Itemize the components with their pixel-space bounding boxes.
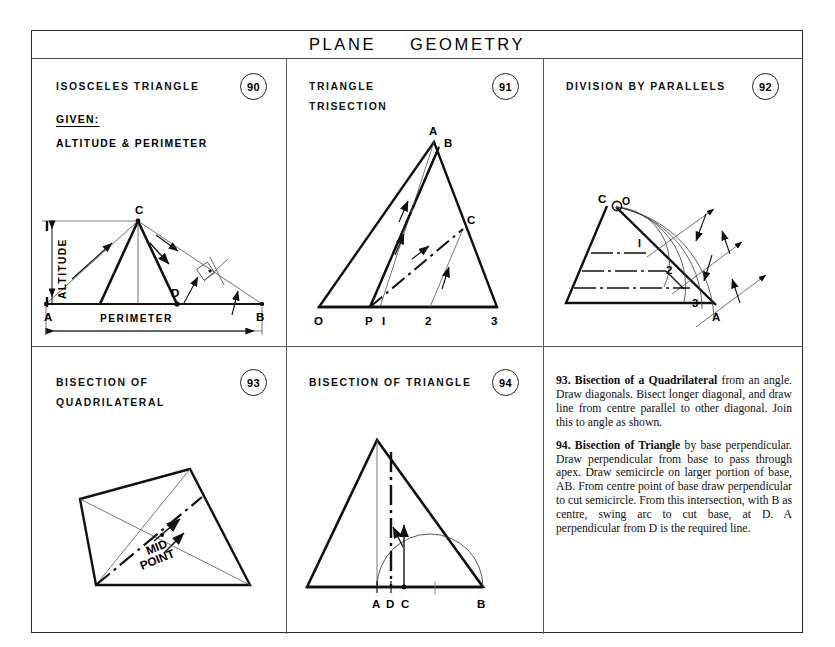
- panel-91-label-a: A: [429, 125, 437, 137]
- panel-92-label-1: I: [638, 237, 641, 249]
- panel-92: DIVISION BY PARALLELS 92: [544, 59, 804, 346]
- panel-91-label-b: B: [444, 137, 452, 149]
- panel-94: BISECTION OF TRIANGLE 94: [287, 347, 543, 634]
- panel-92-diagram: C O I 2 3 A: [544, 59, 804, 346]
- panel-90: ISOSCELES TRIANGLE 90 GIVEN: ALTITUDE & …: [32, 59, 286, 346]
- panel-90-label-altitude: ALTITUDE: [57, 238, 68, 299]
- panel-91-label-p: P: [365, 315, 373, 327]
- panel-93-diagram: MID POINT: [32, 347, 286, 634]
- panel-90-label-perimeter: PERIMETER: [100, 313, 173, 324]
- panel-93: BISECTION OF QUADRILATERAL 93: [32, 347, 286, 634]
- note-94-heading: Bisection of Triangle: [575, 439, 680, 452]
- panel-90-label-b: B: [256, 311, 264, 323]
- note-93-number: 93.: [556, 374, 571, 387]
- panel-94-label-a: A: [372, 598, 380, 610]
- panel-90-diagram: C D A B PERIMETER ALTITUDE: [32, 59, 286, 346]
- panel-92-label-o: O: [622, 195, 630, 207]
- panel-92-label-a: A: [712, 311, 720, 323]
- panel-94-diagram: A D C B: [287, 347, 543, 634]
- panel-91-label-c: C: [467, 214, 475, 226]
- note-94-number: 94.: [556, 439, 571, 452]
- panel-91-label-1: I: [382, 315, 385, 327]
- panel-90-label-a: A: [44, 311, 52, 323]
- panel-94-label-b: B: [477, 598, 485, 610]
- page-title-word-1: PLANE: [309, 35, 376, 54]
- panel-91-diagram: A B C O P I 2 3: [287, 59, 543, 346]
- panel-91: TRIANGLE TRISECTION 91: [287, 59, 543, 346]
- note-93-heading: Bisection of a Quadrilateral: [575, 374, 718, 387]
- panel-92-label-c: C: [598, 193, 606, 205]
- notes-text-block: 93. Bisection of a Quadrilateral from an…: [556, 374, 792, 545]
- panel-91-label-o: O: [314, 315, 323, 327]
- panel-90-label-c: C: [135, 204, 143, 216]
- panel-92-label-3: 3: [692, 297, 698, 309]
- drawing-sheet: PLANE GEOMETRY ISOSCELES TRIANGLE 90 GIV…: [31, 30, 803, 633]
- notes-column: 93. Bisection of a Quadrilateral from an…: [544, 347, 804, 634]
- page-title-word-2: GEOMETRY: [410, 35, 525, 54]
- panel-91-label-3: 3: [491, 315, 497, 327]
- panel-90-label-d: D: [171, 287, 179, 299]
- panel-91-label-2: 2: [425, 315, 431, 327]
- note-93: 93. Bisection of a Quadrilateral from an…: [556, 374, 792, 430]
- note-94-body: by base perpendicular. Draw perpendicula…: [556, 439, 792, 535]
- panel-94-label-c: C: [401, 598, 409, 610]
- panel-grid: ISOSCELES TRIANGLE 90 GIVEN: ALTITUDE & …: [32, 59, 802, 632]
- note-94: 94. Bisection of Triangle by base perpen…: [556, 439, 792, 536]
- sheet-title-bar: PLANE GEOMETRY: [32, 31, 802, 59]
- panel-92-label-2: 2: [666, 264, 672, 276]
- panel-94-label-d: D: [386, 598, 394, 610]
